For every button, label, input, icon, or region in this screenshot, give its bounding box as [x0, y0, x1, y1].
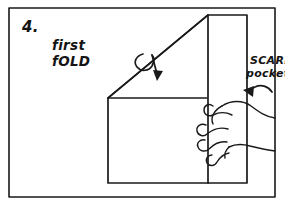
- first-fold-crease: [108, 15, 208, 98]
- first-fold-label-line1: first: [52, 37, 85, 53]
- panel-frame: [9, 8, 275, 197]
- step-number: 4.: [21, 18, 39, 36]
- fold-arrow-icon: [135, 54, 163, 81]
- scarf-pocket-label-line1: SCARF: [250, 54, 285, 67]
- illustration-canvas: 4. first fOLD SCARF pocket: [0, 0, 285, 204]
- scarf-pocket-label-line2: pocket: [245, 67, 285, 80]
- fold-diagram-svg: 4. first fOLD SCARF pocket: [0, 0, 285, 204]
- first-fold-label-line2: fOLD: [52, 53, 90, 69]
